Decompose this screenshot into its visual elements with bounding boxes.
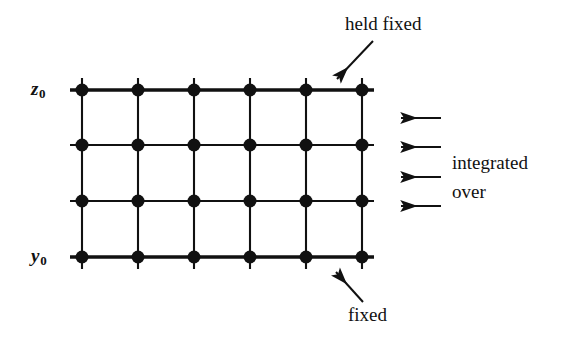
lattice-node-r0-c2: [188, 84, 201, 97]
lattice-node-r2-c0: [76, 195, 89, 208]
lattice-node-r2-c1: [132, 195, 145, 208]
lattice-node-r2-c3: [244, 195, 257, 208]
integrated-label: integrated: [452, 153, 528, 172]
lattice-node-r3-c4: [300, 251, 313, 264]
lattice-grid: [70, 78, 374, 269]
y0-symbol: y: [31, 245, 40, 266]
y0-axis-label: y0: [31, 246, 47, 267]
annotation-arrows: [336, 41, 441, 302]
lattice-node-r0-c0: [76, 84, 89, 97]
lattice-node-r1-c1: [132, 139, 145, 152]
lattice-node-r1-c5: [356, 139, 369, 152]
lattice-node-r0-c4: [300, 84, 313, 97]
z0-symbol: z: [31, 78, 39, 99]
over-label: over: [452, 182, 486, 201]
lattice-node-r3-c2: [188, 251, 201, 264]
lattice-node-r1-c3: [244, 139, 257, 152]
lattice-node-r0-c5: [356, 84, 369, 97]
lattice-node-r2-c4: [300, 195, 313, 208]
lattice-node-r3-c1: [132, 251, 145, 264]
fixed-label: fixed: [348, 305, 387, 324]
lattice-node-r1-c4: [300, 139, 313, 152]
lattice-node-r2-c2: [188, 195, 201, 208]
lattice-node-r0-c3: [244, 84, 257, 97]
z0-axis-label: z0: [31, 79, 46, 100]
fixed-arrow: [336, 272, 363, 302]
lattice-node-r3-c5: [356, 251, 369, 264]
lattice-node-r3-c0: [76, 251, 89, 264]
figure-canvas: z0 y0 held fixed fixed integrated over: [0, 0, 572, 344]
y0-subscript: 0: [40, 253, 47, 268]
held-fixed-arrow: [337, 41, 373, 79]
held-fixed-label: held fixed: [345, 14, 422, 33]
lattice-node-r3-c3: [244, 251, 257, 264]
lattice-node-r1-c0: [76, 139, 89, 152]
lattice-node-r0-c1: [132, 84, 145, 97]
lattice-node-r2-c5: [356, 195, 369, 208]
lattice-node-r1-c2: [188, 139, 201, 152]
z0-subscript: 0: [39, 86, 46, 101]
